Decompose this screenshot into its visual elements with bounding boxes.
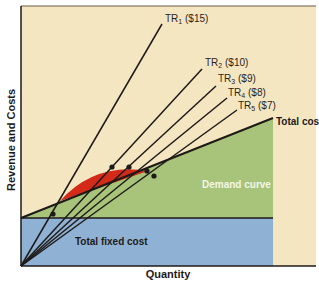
tr4-label: TR4 ($8) [228,87,266,99]
tr2-label: TR2 ($10) [205,57,248,69]
y-axis-label: Revenue and Costs [5,85,17,195]
demand-point-tr1 [50,211,55,216]
demand-point-tr2 [109,164,114,169]
tr5-label: TR5 ($7) [238,100,276,112]
break-even-chart: TR1 ($15) TR2 ($10) TR3 ($9) TR4 ($8) TR… [0,0,319,283]
total-cost-label: Total cost [276,116,319,127]
demand-point-tr4 [144,168,149,173]
demand-curve-label: Demand curve [202,179,271,190]
x-axis-label: Quantity [0,268,319,280]
tr3-label: TR3 ($9) [218,73,256,85]
demand-point-tr3 [126,164,131,169]
total-fixed-cost-label: Total fixed cost [75,236,148,247]
tr1-label: TR1 ($15) [165,13,208,25]
demand-point-tr5 [151,173,156,178]
